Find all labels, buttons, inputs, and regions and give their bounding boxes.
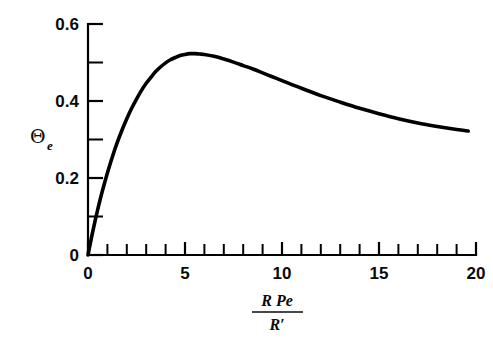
x-axis-tick-label: 10 [273,264,292,283]
line-chart-svg: 00.20.40.6 05101520 Θ e R Pe R′ [0,0,493,348]
y-axis-title-subscript: e [47,138,53,153]
y-axis-tick-label: 0.4 [55,92,79,111]
data-series-line [88,54,468,255]
x-axis-ticks [88,242,476,255]
x-axis-tick-labels: 05101520 [83,264,485,283]
chart-axes-lines [88,24,476,255]
chart-figure: 00.20.40.6 05101520 Θ e R Pe R′ [0,0,493,348]
y-axis-tick-labels: 00.20.40.6 [55,15,79,265]
y-axis-tick-label: 0.6 [55,15,79,34]
y-axis-tick-label: 0.2 [55,169,79,188]
y-axis-title: Θ e [30,125,53,153]
y-axis-tick-label: 0 [70,246,79,265]
x-axis-title-numerator: R Pe [260,292,293,309]
x-axis-tick-label: 20 [467,264,486,283]
x-axis-title: R Pe R′ [252,292,303,333]
x-axis-tick-label: 15 [370,264,389,283]
x-axis-tick-label: 0 [83,264,92,283]
x-axis-title-denominator: R′ [268,316,284,333]
y-axis-title-symbol: Θ [30,125,46,147]
x-axis-tick-label: 5 [180,264,189,283]
